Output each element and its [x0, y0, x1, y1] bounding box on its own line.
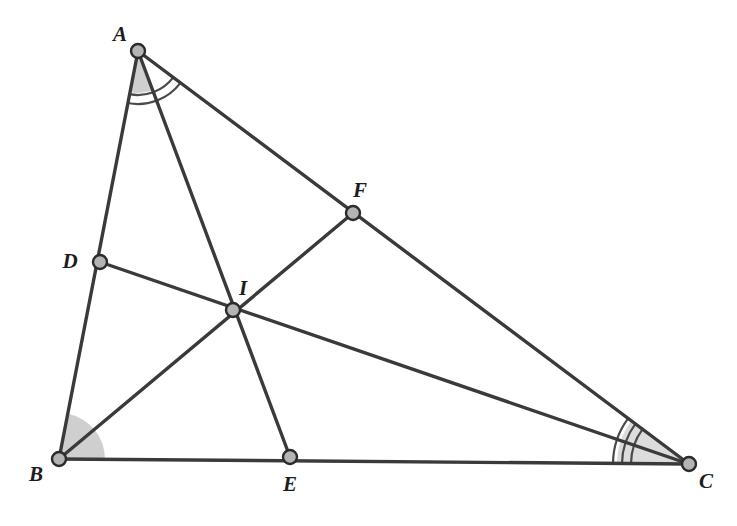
point-node-d[interactable]: [93, 255, 107, 269]
point-node-b[interactable]: [52, 452, 66, 466]
point-label-b: B: [29, 464, 43, 485]
point-node-i[interactable]: [226, 303, 240, 317]
geometry-canvas: [0, 0, 737, 526]
point-label-a: A: [113, 24, 127, 45]
point-node-e[interactable]: [283, 450, 297, 464]
angle-arcs-layer: [128, 77, 643, 463]
point-label-f: F: [353, 180, 367, 201]
point-label-e: E: [283, 474, 297, 495]
side-ca: [138, 51, 689, 464]
point-label-c: C: [699, 471, 713, 492]
point-node-a[interactable]: [131, 44, 145, 58]
point-label-i: I: [239, 278, 247, 299]
point-node-c[interactable]: [682, 457, 696, 471]
point-node-f[interactable]: [346, 206, 360, 220]
bisector-bf: [59, 213, 353, 459]
side-bc: [59, 459, 689, 464]
bisector-cd: [100, 262, 689, 464]
bisector-ae: [138, 51, 290, 457]
point-label-d: D: [62, 251, 77, 272]
angle-sectors-layer: [59, 51, 689, 464]
geometry-figure: ABCDEFI: [0, 0, 737, 526]
point-nodes-layer: [52, 44, 696, 471]
segments-layer: [59, 51, 689, 464]
